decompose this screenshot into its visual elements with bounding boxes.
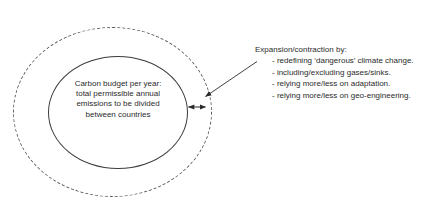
annotation-bullet-4: - relying more/less on geo-engineering. <box>272 90 427 101</box>
annotation-bullet-1: - redefining ‘dangerous’ climate change. <box>272 55 427 66</box>
annotation-bullet-2: - including/excluding gases/sinks. <box>272 67 427 78</box>
annotation-bullet-list: - redefining ‘dangerous’ climate change.… <box>272 55 427 101</box>
arrow-overlay <box>0 0 432 210</box>
annotation-bullet-3: - relying more/less on adaptation. <box>272 78 427 89</box>
diagram-canvas: Carbon budget per year: total permissibl… <box>0 0 432 210</box>
annotation-leader-arrow <box>206 62 258 97</box>
annotation-heading: Expansion/contraction by: <box>255 44 427 55</box>
annotation-block: Expansion/contraction by: - redefining ‘… <box>255 44 427 101</box>
